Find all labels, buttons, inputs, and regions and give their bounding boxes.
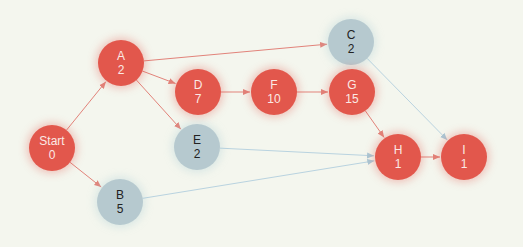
node-duration: 10 <box>267 92 280 106</box>
edge-A-D <box>143 71 176 83</box>
node-duration: 15 <box>345 92 358 106</box>
edge-G-H <box>365 111 384 138</box>
node-G: G15 <box>329 69 375 115</box>
node-duration: 2 <box>194 147 201 161</box>
node-label: Start <box>39 134 64 148</box>
node-A: A2 <box>98 40 144 86</box>
edge-C-I <box>367 58 447 139</box>
node-H: H1 <box>375 134 421 180</box>
node-label: H <box>394 143 403 157</box>
node-label: B <box>116 188 124 202</box>
node-label: A <box>117 49 125 63</box>
node-label: C <box>347 28 356 42</box>
edge-start-A <box>66 82 105 131</box>
node-duration: 7 <box>195 92 202 106</box>
node-duration: 2 <box>348 42 355 56</box>
node-label: G <box>347 78 356 92</box>
node-label: I <box>462 143 465 157</box>
node-I: I1 <box>441 134 487 180</box>
edge-A-E <box>136 80 180 129</box>
edge-B-H <box>143 161 375 198</box>
node-label: D <box>194 78 203 92</box>
node-D: D7 <box>175 69 221 115</box>
node-start: Start0 <box>29 125 75 171</box>
node-duration: 0 <box>49 148 56 162</box>
node-F: F10 <box>251 69 297 115</box>
node-B: B5 <box>97 179 143 225</box>
node-label: F <box>270 78 277 92</box>
node-duration: 5 <box>117 202 124 216</box>
edge-E-H <box>220 148 374 156</box>
node-E: E2 <box>174 124 220 170</box>
node-duration: 2 <box>118 63 125 77</box>
node-duration: 1 <box>395 157 402 171</box>
node-duration: 1 <box>461 157 468 171</box>
edge-A-C <box>144 44 327 61</box>
edge-start-B <box>70 162 101 187</box>
node-label: E <box>193 133 201 147</box>
network-diagram-edges <box>0 0 523 247</box>
node-C: C2 <box>328 19 374 65</box>
